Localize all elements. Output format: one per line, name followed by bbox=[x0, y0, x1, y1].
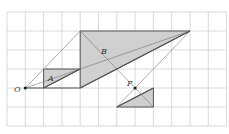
point-P bbox=[134, 86, 137, 89]
geometry-diagram: O A B P bbox=[0, 0, 229, 134]
point-O bbox=[24, 86, 27, 89]
label-B: B bbox=[100, 47, 107, 56]
label-O: O bbox=[14, 85, 21, 94]
label-A: A bbox=[47, 74, 54, 83]
label-P: P bbox=[126, 79, 133, 88]
